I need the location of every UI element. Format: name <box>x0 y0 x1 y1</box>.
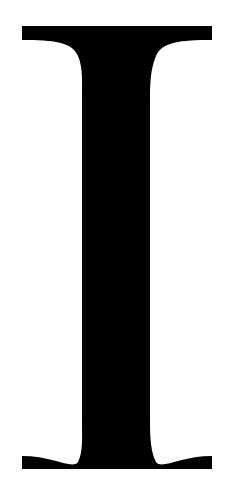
letter-i-glyph: I <box>0 0 226 499</box>
letter-i-icon <box>0 0 226 499</box>
